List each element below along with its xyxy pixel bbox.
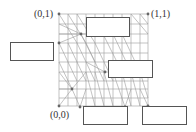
corner-label-top-left: (0,1) [34, 9, 53, 19]
blank-box-top-inner [86, 17, 130, 37]
blank-box-left [10, 42, 54, 61]
corner-label-top-right: (1,1) [151, 9, 170, 19]
corner-label-bottom-left: (0,0) [50, 110, 69, 120]
mesh-diagram: (0,1) (1,1) (0,0) [0, 0, 196, 132]
blank-box-bottom-right [142, 106, 187, 125]
blank-box-right-middle [108, 60, 153, 78]
blank-box-bottom-middle [83, 106, 128, 125]
